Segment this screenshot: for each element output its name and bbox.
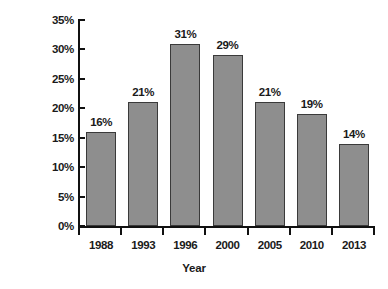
bar-value-label: 31% — [158, 28, 212, 40]
y-axis-tick-label: 25% — [34, 72, 74, 86]
bar-value-label: 19% — [285, 98, 339, 110]
bar-value-label: 21% — [116, 86, 170, 98]
bar — [255, 102, 285, 226]
x-axis-tick-label: 2013 — [327, 239, 381, 251]
bar — [339, 144, 369, 226]
x-axis-title: Year — [0, 262, 388, 274]
bar-value-label: 16% — [74, 116, 128, 128]
x-axis-tick-mark — [373, 228, 375, 235]
y-axis-tick-label: 5% — [34, 190, 74, 204]
bar — [128, 102, 158, 226]
x-axis-tick-mark — [247, 228, 249, 235]
x-axis-tick-mark — [120, 228, 122, 235]
y-axis-tick-label: 30% — [34, 42, 74, 56]
x-axis-tick-mark — [331, 228, 333, 235]
x-axis-tick-mark — [204, 228, 206, 235]
x-axis-tick-mark — [78, 228, 80, 235]
y-axis-tick-label: 20% — [34, 101, 74, 115]
bar — [213, 55, 243, 226]
bar-value-label: 21% — [243, 86, 297, 98]
bar — [86, 132, 116, 226]
bar-chart: % of covered employees 0%5%10%15%20%25%3… — [0, 0, 388, 289]
bar — [297, 114, 327, 226]
y-axis-tick-label: 35% — [34, 13, 74, 27]
bar — [170, 44, 200, 226]
plot-area: 16%21%31%29%21%19%14% — [80, 20, 375, 226]
y-axis-tick-label: 0% — [34, 219, 74, 233]
x-axis-tick-mark — [162, 228, 164, 235]
y-axis-tick-label: 10% — [34, 160, 74, 174]
y-axis-tick-label: 15% — [34, 131, 74, 145]
bar-value-label: 29% — [201, 39, 255, 51]
bar-value-label: 14% — [327, 128, 381, 140]
x-axis-tick-mark — [289, 228, 291, 235]
